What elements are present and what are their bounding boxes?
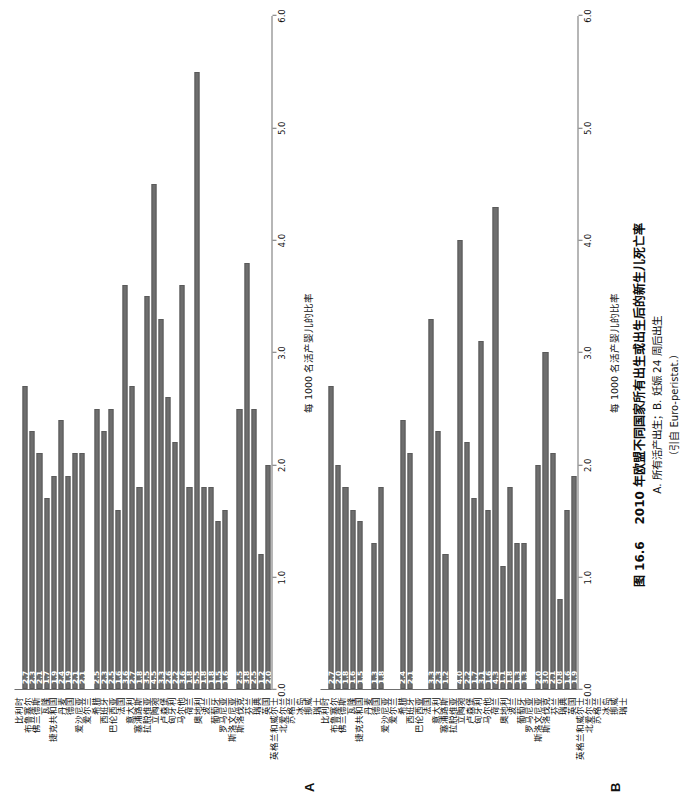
axis-tick-label: 4.0 — [272, 234, 286, 248]
category-label: 佛兰德斯 — [337, 694, 346, 794]
bar-value-label: 1.2 — [441, 671, 449, 684]
panel-b-letter: B — [607, 782, 622, 792]
category-label: 匈牙利 — [167, 694, 176, 794]
bar-value-label: 2.1 — [406, 671, 414, 684]
bar: 1.8 — [136, 487, 141, 689]
panel-a-axis-title: 每 1000 名活产婴儿的比率 — [300, 16, 314, 794]
bar-row — [320, 16, 327, 689]
bar-row: 2.3 — [434, 16, 441, 689]
category-label: 斯洛伐克 — [541, 694, 550, 794]
category-label: 佛兰德斯 — [31, 694, 40, 794]
bar-row — [391, 16, 398, 689]
bar-row: 2.3 — [28, 16, 35, 689]
panel-a-letter: A — [301, 782, 316, 792]
panel-b-plot-area: 2.72.01.81.61.51.31.82.42.13.32.31.24.02… — [320, 16, 577, 690]
bar: 3.5 — [144, 296, 149, 689]
bar-row: 1.6 — [349, 16, 356, 689]
bar-row: 2.0 — [334, 16, 341, 689]
bar-value-label: 1.6 — [221, 671, 229, 684]
axis-tick-label: 2.0 — [272, 459, 286, 473]
bar-value-label: 2.0 — [264, 671, 272, 684]
panel-b-axis-title: 每 1000 名活产婴儿的比率 — [606, 16, 620, 794]
bar: 1.8 — [208, 487, 213, 689]
category-label: 英格兰和威尔士 — [575, 694, 584, 794]
panel-a: 比利时布鲁塞尔佛兰德斯瓦隆捷克共和国丹麦德国爱沙尼亚爱尔兰希腊西班牙巴伦西亚法国… — [14, 16, 314, 794]
bar: 2.1 — [79, 453, 84, 689]
bar: 2.5 — [251, 409, 256, 689]
bar-row: 1.8 — [185, 16, 192, 689]
bar-row: 1.6 — [114, 16, 121, 689]
bar-row: 1.7 — [470, 16, 477, 689]
bar: 3.1 — [478, 341, 483, 689]
bar-row: 2.6 — [164, 16, 171, 689]
axis-tick-label: 4.0 — [578, 234, 592, 248]
category-label: 捷克共和国 — [48, 694, 57, 794]
bar: 4.3 — [492, 207, 497, 689]
bar: 1.8 — [201, 487, 206, 689]
bar-row: 2.1 — [71, 16, 78, 689]
category-label: 英格兰和威尔士 — [269, 694, 278, 794]
category-label: 苏格兰 — [286, 694, 295, 794]
bar: 2.0 — [535, 465, 540, 689]
bar-row: 1.6 — [484, 16, 491, 689]
bar-row: 1.9 — [64, 16, 71, 689]
figure-caption: 图 16.6 2010 年欧盟不同国家所有出生或出生后的新生儿死亡率 A. 所有… — [620, 16, 686, 794]
bar-row: 2.5 — [250, 16, 257, 689]
bar: 1.6 — [350, 510, 355, 689]
bar: 1.7 — [471, 498, 476, 689]
bar-row: 3.3 — [427, 16, 434, 689]
category-label: 立陶宛 — [150, 694, 159, 794]
category-label: 挪威 — [303, 694, 312, 794]
bar-row: 1.3 — [513, 16, 520, 689]
bar: 1.9 — [571, 476, 576, 689]
bar: 2.0 — [335, 465, 340, 689]
category-label: 瑞典 — [252, 694, 261, 794]
bar: 2.2 — [464, 442, 469, 689]
axis-tick-label: 6.0 — [272, 9, 286, 23]
figure-caption-source: （引自 Euro-peristat.） — [666, 16, 682, 794]
bar-row: 3.0 — [541, 16, 548, 689]
panel-b-category-axis: 比利时布鲁塞尔佛兰德斯瓦隆捷克共和国丹麦德国爱沙尼亚爱尔兰希腊西班牙巴伦西亚法国… — [320, 690, 577, 794]
bar-row — [527, 16, 534, 689]
bar-row: 1.9 — [50, 16, 57, 689]
bar: 4.0 — [457, 240, 462, 689]
category-label: 挪威 — [609, 694, 618, 794]
bar-row: 1.8 — [341, 16, 348, 689]
bar-row: 2.5 — [235, 16, 242, 689]
bar: 2.5 — [236, 409, 241, 689]
category-label: 罗马尼亚 — [524, 694, 533, 794]
bar-row: 2.0 — [264, 16, 271, 689]
category-label: 西班牙 — [405, 694, 414, 794]
bar-row: 2.1 — [549, 16, 556, 689]
bar-row — [413, 16, 420, 689]
category-label: 波兰 — [507, 694, 516, 794]
category-label: 爱尔兰 — [388, 694, 397, 794]
bar-row: 1.8 — [135, 16, 142, 689]
bar-row: 1.5 — [214, 16, 221, 689]
bar: 2.2 — [172, 442, 177, 689]
bar: 1.6 — [485, 510, 490, 689]
bar: 2.3 — [29, 431, 34, 689]
bar-row: 4.0 — [456, 16, 463, 689]
bar: 2.6 — [165, 397, 170, 689]
category-label: 法国 — [116, 694, 125, 794]
bar: 2.1 — [407, 453, 412, 689]
category-label: 西班牙 — [99, 694, 108, 794]
bar: 3.0 — [542, 353, 547, 690]
bar-value-label: 1.5 — [356, 671, 364, 684]
bar: 2.5 — [94, 409, 99, 689]
bar-row: 2.3 — [100, 16, 107, 689]
bar-row: 1.6 — [563, 16, 570, 689]
bar-row: 2.5 — [93, 16, 100, 689]
bar: 1.1 — [500, 566, 505, 689]
bar-row: 4.5 — [150, 16, 157, 689]
bar-row — [228, 16, 235, 689]
axis-tick-label: 6.0 — [578, 9, 592, 23]
category-label: 瑞士 — [618, 694, 627, 794]
panel-a-plot-area: 2.72.32.11.71.92.41.92.12.12.52.32.51.63… — [14, 16, 271, 690]
bar-row: 2.1 — [35, 16, 42, 689]
category-label: 比利时 — [14, 694, 23, 794]
category-label: 荷兰 — [184, 694, 193, 794]
bar: 3.8 — [244, 263, 249, 689]
axis-tick-label: 3.0 — [272, 346, 286, 360]
